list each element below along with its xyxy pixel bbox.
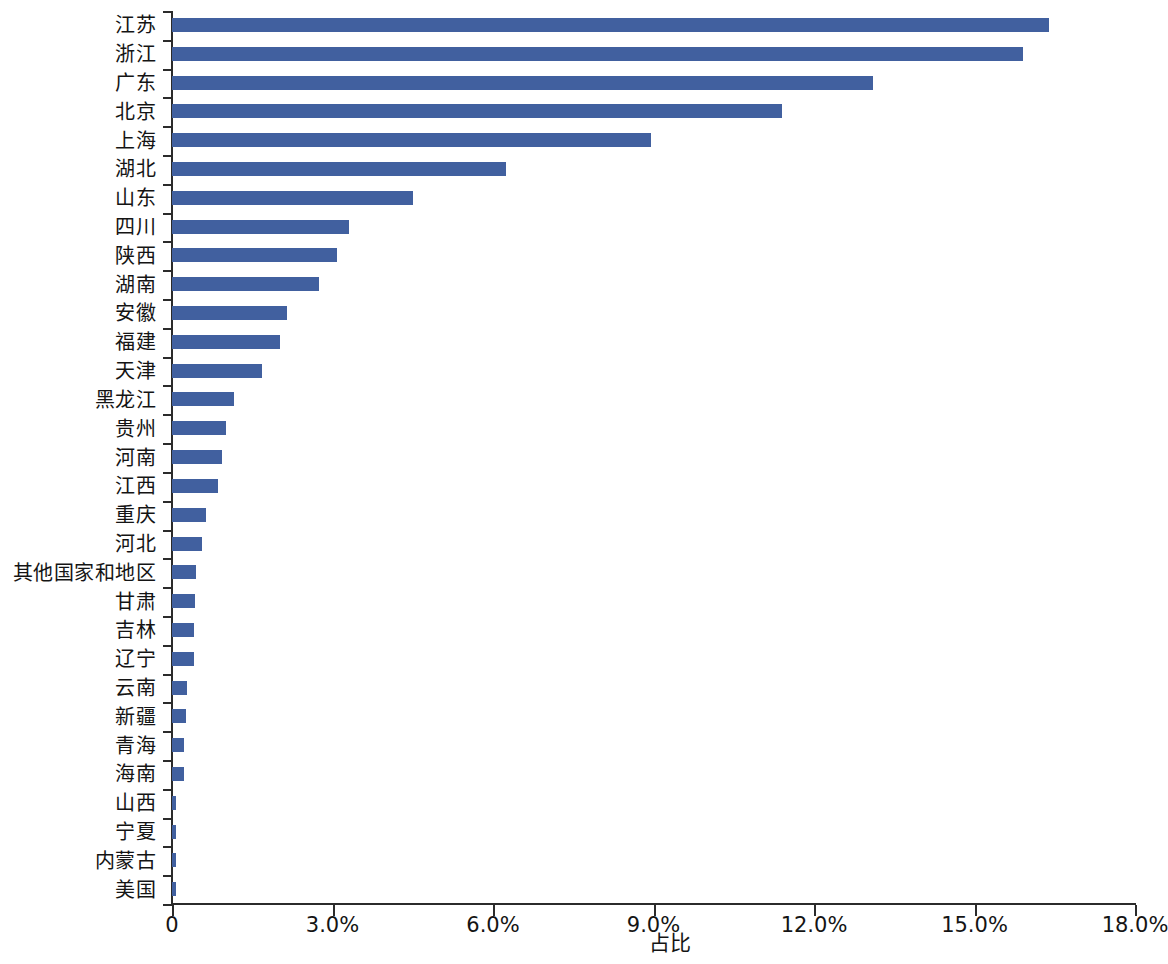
bar-row xyxy=(172,69,1135,98)
y-axis-label-0: 江苏 xyxy=(115,15,156,35)
bar[interactable] xyxy=(172,565,196,579)
plot-area xyxy=(172,11,1135,904)
bar-row xyxy=(172,645,1135,674)
bar[interactable] xyxy=(172,796,176,810)
bar[interactable] xyxy=(172,709,186,723)
bar-row xyxy=(172,97,1135,126)
y-axis-tick xyxy=(163,213,172,215)
y-axis-tick xyxy=(163,501,172,503)
bar-row xyxy=(172,501,1135,530)
y-axis-label-16: 江西 xyxy=(115,476,156,496)
bar[interactable] xyxy=(172,306,287,320)
bar[interactable] xyxy=(172,133,651,147)
bar[interactable] xyxy=(172,191,413,205)
bar-row xyxy=(172,674,1135,703)
bar[interactable] xyxy=(172,652,194,666)
bar-row xyxy=(172,241,1135,270)
bar[interactable] xyxy=(172,767,184,781)
bar[interactable] xyxy=(172,18,1049,32)
y-axis-label-23: 云南 xyxy=(115,678,156,698)
y-axis-tick xyxy=(163,299,172,301)
y-axis-tick xyxy=(163,69,172,71)
bar-row xyxy=(172,789,1135,818)
bar-row xyxy=(172,11,1135,40)
bar-row xyxy=(172,299,1135,328)
y-axis-label-22: 辽宁 xyxy=(115,649,156,669)
bar[interactable] xyxy=(172,853,176,867)
bar-row xyxy=(172,558,1135,587)
y-axis-label-2: 广东 xyxy=(115,73,156,93)
bar-row xyxy=(172,328,1135,357)
y-axis-tick xyxy=(163,875,172,877)
y-axis-tick xyxy=(163,443,172,445)
bar-row xyxy=(172,213,1135,242)
bar[interactable] xyxy=(172,104,782,118)
y-axis-label-19: 其他国家和地区 xyxy=(13,563,157,583)
y-axis-tick xyxy=(163,818,172,820)
bar-row xyxy=(172,731,1135,760)
bar-row xyxy=(172,875,1135,904)
bar[interactable] xyxy=(172,450,222,464)
bar[interactable] xyxy=(172,623,194,637)
y-axis-tick xyxy=(163,558,172,560)
bar-row xyxy=(172,702,1135,731)
bar-row xyxy=(172,472,1135,501)
x-axis-title: 占比 xyxy=(0,930,1163,956)
y-axis-label-18: 河北 xyxy=(115,534,156,554)
bar-row xyxy=(172,414,1135,443)
bar[interactable] xyxy=(172,76,873,90)
y-axis-label-14: 贵州 xyxy=(115,419,156,439)
y-axis-label-20: 甘肃 xyxy=(115,592,156,612)
bar[interactable] xyxy=(172,594,195,608)
bar-row xyxy=(172,270,1135,299)
y-axis-label-21: 吉林 xyxy=(115,620,156,640)
y-axis-category-labels: 江苏浙江广东北京上海湖北山东四川陕西湖南安徽福建天津黑龙江贵州河南江西重庆河北其… xyxy=(0,11,164,904)
bar[interactable] xyxy=(172,681,187,695)
bar-row xyxy=(172,385,1135,414)
bar[interactable] xyxy=(172,220,349,234)
bar-row xyxy=(172,760,1135,789)
y-axis-label-17: 重庆 xyxy=(115,505,156,525)
bar-row xyxy=(172,155,1135,184)
y-axis-tick xyxy=(163,530,172,532)
bar[interactable] xyxy=(172,508,206,522)
y-axis-tick xyxy=(163,357,172,359)
y-axis-label-13: 黑龙江 xyxy=(95,390,157,410)
y-axis-label-6: 山东 xyxy=(115,188,156,208)
y-axis-tick xyxy=(163,270,172,272)
y-axis-tick xyxy=(163,40,172,42)
y-axis-label-7: 四川 xyxy=(115,217,156,237)
y-axis-tick xyxy=(163,645,172,647)
bar[interactable] xyxy=(172,825,176,839)
bar[interactable] xyxy=(172,392,234,406)
y-axis-label-9: 湖南 xyxy=(115,275,156,295)
bar-row xyxy=(172,846,1135,875)
y-axis-label-29: 内蒙古 xyxy=(95,851,157,871)
bar-row xyxy=(172,357,1135,386)
y-axis-label-26: 海南 xyxy=(115,764,156,784)
y-axis-tick xyxy=(163,328,172,330)
y-axis-label-3: 北京 xyxy=(115,102,156,122)
bar[interactable] xyxy=(172,162,506,176)
y-axis-label-30: 美国 xyxy=(115,880,156,900)
bar[interactable] xyxy=(172,248,337,262)
bar[interactable] xyxy=(172,421,226,435)
bar[interactable] xyxy=(172,537,202,551)
bar[interactable] xyxy=(172,364,262,378)
bar[interactable] xyxy=(172,882,176,896)
bar-row xyxy=(172,40,1135,69)
y-axis-tick xyxy=(163,904,172,906)
y-axis-tick xyxy=(163,126,172,128)
bar[interactable] xyxy=(172,47,1023,61)
y-axis-label-1: 浙江 xyxy=(115,44,156,64)
bar[interactable] xyxy=(172,738,184,752)
y-axis-label-11: 福建 xyxy=(115,332,156,352)
y-axis-label-28: 宁夏 xyxy=(115,822,156,842)
bar-row xyxy=(172,530,1135,559)
bar[interactable] xyxy=(172,335,280,349)
y-axis-label-27: 山西 xyxy=(115,793,156,813)
y-axis-tick xyxy=(163,616,172,618)
bar-row xyxy=(172,443,1135,472)
bar[interactable] xyxy=(172,479,218,493)
bar[interactable] xyxy=(172,277,319,291)
